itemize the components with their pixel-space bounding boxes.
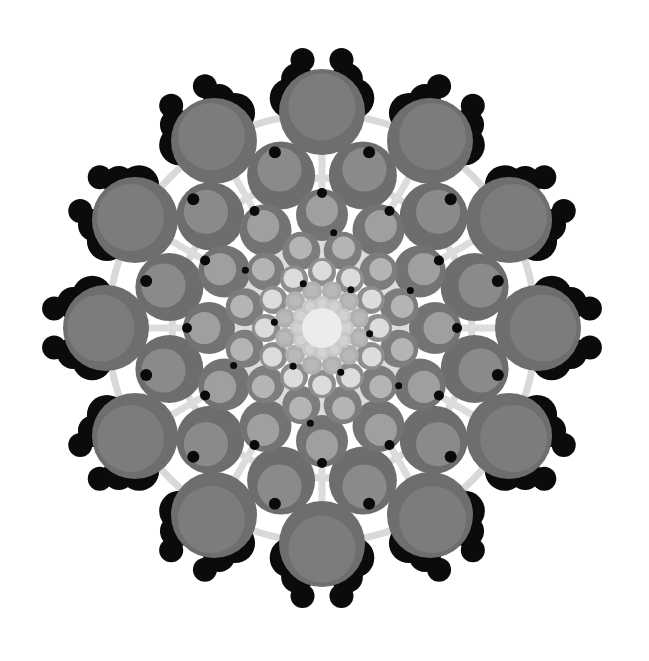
black-bead — [329, 584, 353, 608]
inner-disc — [306, 359, 318, 371]
black-dot — [230, 362, 237, 369]
black-dot — [242, 267, 249, 274]
black-dot — [317, 188, 327, 198]
black-bead — [88, 165, 112, 189]
black-bead — [291, 584, 315, 608]
inner-disc — [332, 397, 355, 420]
inner-disc — [293, 323, 303, 333]
black-bead — [68, 433, 92, 457]
inner-disc — [343, 295, 355, 307]
black-dot — [269, 498, 281, 510]
black-bead — [532, 165, 556, 189]
black-dot — [385, 440, 395, 450]
inner-disc — [332, 236, 355, 259]
inner-disc — [312, 376, 332, 396]
black-dot — [250, 440, 260, 450]
inner-disc — [317, 299, 327, 309]
black-dot — [200, 391, 210, 401]
black-bead — [88, 467, 112, 491]
black-dot — [452, 323, 462, 333]
black-dot — [307, 420, 314, 427]
black-bead — [427, 74, 451, 98]
black-dot — [140, 369, 152, 381]
inner-disc — [343, 349, 355, 361]
black-bead — [193, 558, 217, 582]
black-dot — [445, 451, 457, 463]
black-dot — [492, 275, 504, 287]
inner-disc — [312, 261, 332, 281]
inner-disc — [391, 295, 414, 318]
black-bead — [159, 94, 183, 118]
black-bead — [68, 199, 92, 223]
inner-disc — [341, 268, 361, 288]
inner-disc — [188, 312, 220, 344]
core — [302, 308, 342, 348]
inner-disc — [289, 349, 301, 361]
inner-disc — [391, 338, 414, 361]
inner-disc — [306, 285, 318, 297]
black-bead — [532, 467, 556, 491]
inner-disc — [289, 236, 312, 259]
inner-disc — [480, 405, 547, 472]
inner-disc — [262, 290, 282, 310]
mandala-artwork — [0, 0, 649, 661]
inner-disc — [262, 347, 282, 367]
black-dot — [337, 369, 344, 376]
inner-disc — [362, 290, 382, 310]
black-bead — [159, 538, 183, 562]
black-bead — [193, 74, 217, 98]
black-dot — [434, 256, 444, 266]
inner-disc — [230, 295, 253, 318]
black-dot — [250, 206, 260, 216]
black-dot — [200, 256, 210, 266]
black-dot — [330, 229, 337, 236]
black-dot — [269, 146, 281, 158]
black-bead — [427, 558, 451, 582]
black-bead — [42, 335, 66, 359]
black-dot — [300, 280, 307, 287]
black-dot — [366, 330, 373, 337]
black-bead — [578, 297, 602, 321]
inner-disc — [289, 397, 312, 420]
black-bead — [461, 94, 485, 118]
inner-disc — [399, 103, 466, 170]
inner-disc — [399, 486, 466, 553]
inner-disc — [97, 405, 164, 472]
black-dot — [290, 363, 297, 370]
inner-disc — [306, 194, 338, 226]
black-dot — [347, 286, 354, 293]
black-bead — [578, 335, 602, 359]
inner-disc — [306, 430, 338, 462]
inner-disc — [342, 323, 352, 333]
black-dot — [140, 275, 152, 287]
inner-disc — [252, 375, 275, 398]
black-bead — [291, 48, 315, 72]
black-dot — [187, 193, 199, 205]
black-dot — [395, 382, 402, 389]
black-bead — [42, 297, 66, 321]
black-dot — [317, 458, 327, 468]
black-dot — [445, 193, 457, 205]
inner-disc — [510, 294, 577, 361]
inner-disc — [317, 348, 327, 358]
inner-disc — [288, 73, 355, 140]
black-bead — [552, 199, 576, 223]
inner-disc — [480, 184, 547, 251]
inner-disc — [326, 359, 338, 371]
inner-disc — [362, 347, 382, 367]
inner-disc — [353, 332, 365, 344]
black-dot — [187, 451, 199, 463]
black-dot — [385, 206, 395, 216]
black-dot — [492, 369, 504, 381]
black-bead — [552, 433, 576, 457]
inner-disc — [178, 103, 245, 170]
inner-disc — [67, 294, 134, 361]
inner-disc — [97, 184, 164, 251]
inner-disc — [279, 312, 291, 324]
inner-disc — [178, 486, 245, 553]
inner-disc — [353, 312, 365, 324]
inner-disc — [284, 368, 304, 388]
black-dot — [434, 391, 444, 401]
core-disc — [302, 308, 342, 348]
black-dot — [271, 319, 278, 326]
